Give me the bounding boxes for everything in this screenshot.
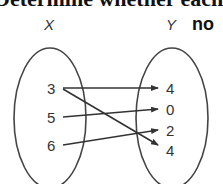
arrow-3-to-4-bottom [63, 89, 158, 145]
domain-value: 3 [47, 81, 55, 96]
arrow-5-to-0 [63, 109, 158, 117]
mapping-diagram [0, 0, 223, 184]
range-value: 0 [166, 102, 174, 117]
range-value: 2 [166, 123, 174, 138]
range-value: 4 [166, 143, 174, 158]
range-value: 4 [166, 81, 174, 96]
domain-value: 6 [47, 138, 55, 153]
domain-value: 5 [47, 110, 55, 125]
